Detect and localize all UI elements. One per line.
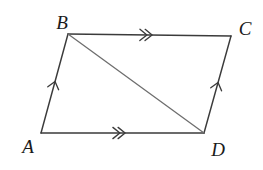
vertex-label-d: D (210, 139, 225, 160)
parallelogram-diagram: A B C D (0, 0, 263, 170)
vertex-label-c: C (239, 18, 252, 39)
edge-b-c (68, 34, 231, 36)
congruence-arrow-marks (48, 29, 222, 138)
vertex-label-a: A (20, 136, 34, 157)
edge-a-b (41, 34, 68, 133)
vertex-label-b: B (56, 12, 68, 33)
diagonal-b-d (68, 34, 204, 133)
edge-c-d (204, 36, 231, 133)
geometry-figure: A B C D (0, 0, 263, 170)
